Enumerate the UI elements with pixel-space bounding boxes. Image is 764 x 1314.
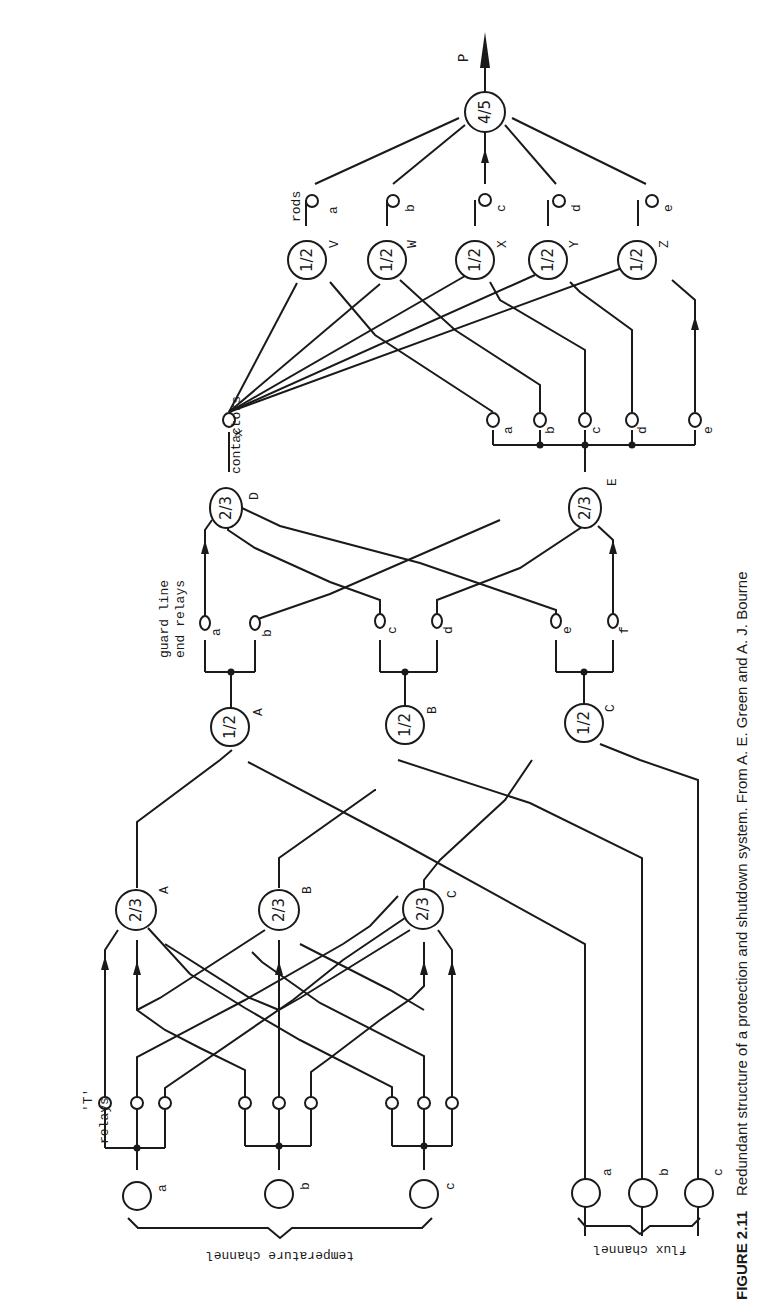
svg-text:d: d (635, 426, 650, 434)
svg-text:C: C (603, 704, 618, 712)
svg-text:c: c (589, 426, 604, 434)
temperature-channel-label: temperature channel (206, 1248, 354, 1263)
output-p-label: P (456, 54, 472, 62)
svg-text:1/2: 1/2 (378, 248, 396, 272)
svg-text:A: A (157, 886, 172, 894)
junction-dots (134, 442, 636, 1152)
arrow-icon (691, 316, 699, 330)
svg-text:2/3: 2/3 (127, 898, 145, 922)
svg-text:a: a (326, 206, 341, 214)
arrow-icon (448, 961, 456, 975)
t-relays-label: relays (97, 1097, 112, 1144)
arrow-icon (133, 961, 141, 975)
svg-text:1/2: 1/2 (628, 248, 646, 272)
svg-text:Z: Z (657, 240, 672, 248)
svg-text:1/2: 1/2 (539, 248, 557, 272)
svg-text:2/3: 2/3 (217, 496, 235, 520)
svg-text:d: d (441, 626, 456, 634)
svg-text:e: e (701, 426, 716, 434)
sensor-label: c (711, 1168, 726, 1176)
arrow-icon (201, 540, 209, 554)
vote-1of2-rods: 1/2 1/2 1/2 1/2 1/2 V W X Y Z (288, 240, 672, 279)
sensor-label: a (155, 1184, 170, 1192)
rods-label: rods (289, 191, 304, 222)
contactors-label: contactors (229, 396, 244, 474)
sensor-label: a (600, 1168, 615, 1176)
svg-text:a: a (209, 628, 224, 636)
guard-line-label: guard line (157, 580, 172, 658)
svg-text:4/5: 4/5 (476, 100, 494, 124)
svg-text:E: E (605, 478, 620, 486)
svg-text:1/2: 1/2 (575, 711, 593, 735)
flux-channel-label: flux channel (593, 1242, 687, 1257)
svg-text:f: f (617, 626, 632, 634)
vote-2of3-guard: 2/3 2/3 D E (210, 478, 620, 528)
svg-text:b: b (403, 204, 418, 212)
vote-2of3-temperature: 2/3 2/3 2/3 A B C (116, 886, 460, 930)
figure-number: FIGURE 2.11 (733, 1211, 750, 1300)
svg-text:b: b (543, 426, 558, 434)
channel-braces (128, 1218, 700, 1238)
arrow-icon (420, 961, 428, 975)
svg-text:e: e (560, 626, 575, 634)
wiring (105, 45, 698, 1236)
svg-text:B: B (300, 886, 315, 894)
svg-text:V: V (327, 240, 342, 248)
arrow-icon (609, 540, 617, 554)
sensor-label: b (657, 1168, 672, 1176)
t-relays (99, 1097, 458, 1109)
svg-text:1/2: 1/2 (221, 715, 239, 739)
svg-text:c: c (494, 204, 509, 212)
arrow-icon (275, 961, 283, 975)
arrowheads (101, 32, 699, 975)
guard-line-label: end relays (173, 580, 188, 658)
svg-text:D: D (247, 492, 262, 500)
arrow-icon (101, 956, 109, 970)
temperature-sensors: a b c (123, 1180, 458, 1210)
redundant-protection-diagram: a b c a b c temperature channel flux cha… (0, 0, 764, 1314)
svg-text:2/3: 2/3 (576, 496, 594, 520)
sensor-label: c (443, 1182, 458, 1190)
svg-text:C: C (445, 890, 460, 898)
svg-text:1/2: 1/2 (466, 248, 484, 272)
svg-text:d: d (569, 204, 584, 212)
arrow-icon (480, 32, 490, 68)
svg-text:W: W (405, 240, 420, 248)
svg-text:A: A (251, 708, 266, 716)
vote-1of2-channels: 1/2 1/2 1/2 A B C (211, 704, 618, 746)
t-relays-label: 'T' (81, 1089, 96, 1112)
svg-text:b: b (260, 629, 275, 637)
sensor-label: b (298, 1182, 313, 1190)
svg-text:1/2: 1/2 (396, 713, 414, 737)
figure-caption: FIGURE 2.11 Redundant structure of a pro… (733, 571, 750, 1300)
rods: a b c d e (306, 194, 676, 214)
contactors: x a b c d e (223, 413, 716, 437)
svg-text:2/3: 2/3 (270, 898, 288, 922)
svg-text:a: a (501, 426, 516, 434)
svg-text:Y: Y (567, 240, 582, 248)
caption-text: Redundant structure of a protection and … (733, 571, 750, 1196)
flux-sensors: a b c (572, 1168, 726, 1207)
svg-text:B: B (425, 706, 440, 714)
svg-text:e: e (661, 204, 676, 212)
svg-text:c: c (385, 626, 400, 634)
arrow-icon (481, 149, 489, 163)
svg-text:2/3: 2/3 (414, 897, 432, 921)
svg-text:X: X (495, 240, 510, 248)
svg-text:1/2: 1/2 (298, 248, 316, 272)
